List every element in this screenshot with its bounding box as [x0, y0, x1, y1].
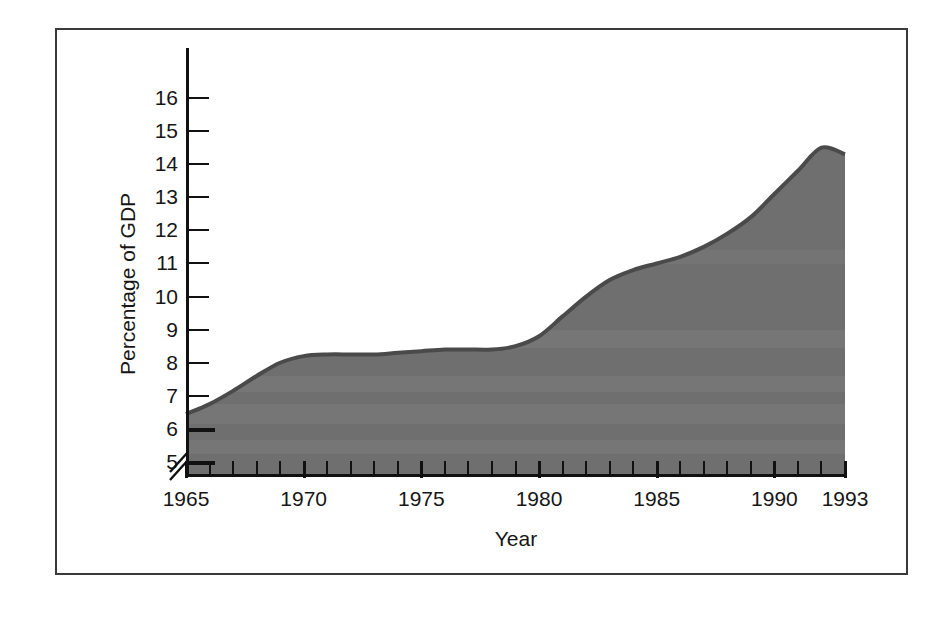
y-tick-7 — [189, 395, 209, 397]
y-tick-11 — [189, 262, 209, 264]
plot-area: 5678910111213141516 19651970197519801985… — [0, 0, 943, 619]
chart-figure: 5678910111213141516 19651970197519801985… — [0, 0, 943, 619]
x-tick-1973 — [373, 461, 375, 474]
x-tick-1981 — [562, 461, 564, 474]
y-tick-10 — [189, 296, 209, 298]
x-tick-1976 — [444, 461, 446, 474]
y-tick-15 — [189, 130, 209, 132]
x-tick-1971 — [326, 461, 328, 474]
x-tick-1982 — [585, 461, 587, 474]
x-tick-1980 — [538, 461, 541, 478]
x-tick-label-1993: 1993 — [822, 487, 869, 511]
x-tick-1972 — [350, 461, 352, 474]
x-axis-title: Year — [495, 527, 537, 551]
x-tick-1984 — [632, 461, 634, 474]
x-tick-1987 — [703, 461, 705, 474]
x-tick-label-1975: 1975 — [398, 487, 445, 511]
y-tick-label-6: 6 — [130, 418, 178, 439]
y-tick-16 — [189, 97, 209, 99]
x-tick-1977 — [467, 461, 469, 474]
x-tick-1978 — [491, 461, 493, 474]
x-tick-1983 — [609, 461, 611, 474]
x-tick-1970 — [303, 461, 306, 478]
x-tick-1967 — [232, 461, 234, 474]
y-tick-13 — [189, 196, 209, 198]
x-tick-1974 — [397, 461, 399, 474]
y-tick-14 — [189, 163, 209, 165]
y-axis-title: Percentage of GDP — [116, 193, 140, 375]
y-axis-break-icon — [168, 448, 202, 484]
x-tick-1990 — [773, 461, 776, 478]
x-tick-label-1965: 1965 — [163, 487, 210, 511]
x-tick-1969 — [279, 461, 281, 474]
x-tick-1985 — [656, 461, 659, 478]
x-tick-1989 — [750, 461, 752, 474]
x-tick-1968 — [256, 461, 258, 474]
x-tick-1975 — [420, 461, 423, 478]
x-tick-label-1980: 1980 — [516, 487, 563, 511]
y-axis-title-host: Percentage of GDP — [118, 120, 144, 420]
x-tick-1991 — [797, 461, 799, 474]
y-tick-6 — [189, 428, 215, 432]
y-tick-8 — [189, 362, 209, 364]
x-tick-1979 — [515, 461, 517, 474]
x-tick-label-1970: 1970 — [280, 487, 327, 511]
x-tick-1988 — [726, 461, 728, 474]
x-tick-1986 — [679, 461, 681, 474]
x-tick-1966 — [209, 461, 211, 474]
y-tick-9 — [189, 329, 209, 331]
x-tick-1992 — [820, 461, 822, 474]
x-axis-line — [186, 474, 846, 477]
x-tick-label-1990: 1990 — [751, 487, 798, 511]
y-tick-label-16: 16 — [130, 87, 178, 108]
y-tick-12 — [189, 229, 209, 231]
x-tick-label-1985: 1985 — [633, 487, 680, 511]
x-tick-1993 — [844, 461, 847, 478]
